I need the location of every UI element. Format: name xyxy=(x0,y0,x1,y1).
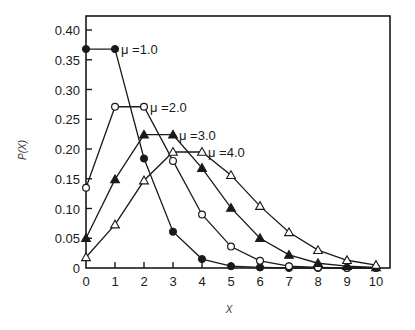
y-tick-label: 0.15 xyxy=(55,172,80,187)
filled-triangle-marker xyxy=(111,175,120,183)
open-circle-marker xyxy=(141,103,148,110)
filled-circle-marker xyxy=(227,263,234,270)
open-circle-marker xyxy=(286,263,293,270)
y-tick-label: 0 xyxy=(73,261,80,276)
y-tick-label: 0.40 xyxy=(55,23,80,38)
y-tick-label: 0.30 xyxy=(55,83,80,98)
y-tick-label: 0.35 xyxy=(55,53,80,68)
series-label-mu-2: μ =2.0 xyxy=(150,100,187,115)
open-circle-marker xyxy=(170,158,177,165)
series-label-mu-3: μ =3.0 xyxy=(179,128,216,143)
y-axis-title: P(X) xyxy=(17,140,28,160)
series-label-mu-4: μ =4.0 xyxy=(208,145,245,160)
x-tick-label: 4 xyxy=(198,274,205,289)
x-tick-label: 7 xyxy=(285,274,292,289)
x-tick-label: 10 xyxy=(369,274,383,289)
filled-circle-marker xyxy=(140,155,147,162)
filled-circle-marker xyxy=(169,228,176,235)
x-tick-label: 2 xyxy=(140,274,147,289)
poisson-distribution-chart: 00.050.100.150.200.250.300.350.40 012345… xyxy=(0,0,415,330)
filled-triangle-marker xyxy=(285,251,294,259)
filled-circle-marker xyxy=(198,255,205,262)
x-tick-label: 0 xyxy=(82,274,89,289)
open-circle-marker xyxy=(228,243,235,250)
y-tick-label: 0.10 xyxy=(55,202,80,217)
x-tick-label: 3 xyxy=(169,274,176,289)
x-tick-label: 5 xyxy=(227,274,234,289)
y-tick-label: 0.25 xyxy=(55,112,80,127)
x-tick-label: 6 xyxy=(256,274,263,289)
open-triangle-marker xyxy=(314,246,323,254)
x-tick-label: 8 xyxy=(314,274,321,289)
y-tick-label: 0.05 xyxy=(55,231,80,246)
open-circle-marker xyxy=(112,103,119,110)
filled-circle-marker xyxy=(82,45,89,52)
y-tick-label: 0.20 xyxy=(55,142,80,157)
x-axis-title: X xyxy=(225,304,233,315)
filled-circle-marker xyxy=(256,264,263,271)
x-tick-label: 1 xyxy=(111,274,118,289)
filled-circle-marker xyxy=(111,45,118,52)
open-circle-marker xyxy=(83,184,90,191)
open-triangle-marker xyxy=(111,220,120,228)
open-circle-marker xyxy=(199,211,206,218)
series-2 xyxy=(83,103,380,271)
open-circle-marker xyxy=(257,257,264,264)
x-tick-label: 9 xyxy=(343,274,350,289)
series-label-mu-1: μ =1.0 xyxy=(121,42,158,57)
